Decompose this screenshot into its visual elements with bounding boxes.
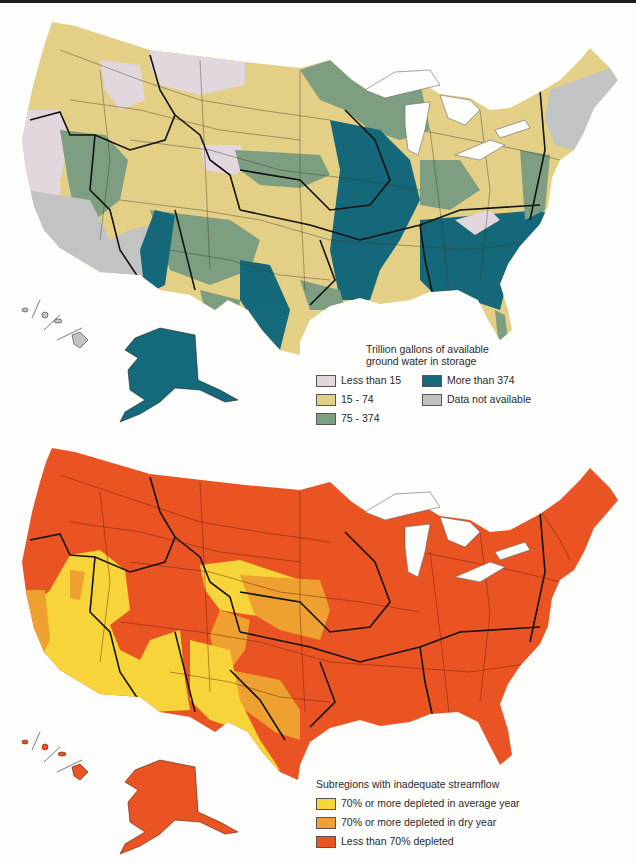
- streamflow-legend: Subregions with inadequate streamflow 70…: [316, 779, 636, 852]
- legend-item-less-than-70: Less than 70% depleted: [316, 833, 636, 852]
- legend-label: 75 - 374: [341, 413, 380, 425]
- legend-label: 15 - 74: [341, 394, 374, 406]
- legend-label: Data not available: [447, 394, 531, 406]
- swatch-75-374: [316, 413, 336, 425]
- swatch-less-than-70: [316, 836, 336, 848]
- legend-item-75-374: 75 - 374: [316, 409, 422, 428]
- swatch-dry-year: [316, 817, 336, 829]
- legend-item-more-than-374: More than 374: [422, 371, 562, 390]
- legend-item-15-74: 15 - 74: [316, 390, 422, 409]
- legend-label: 70% or more depleted in dry year: [341, 817, 496, 829]
- legend-label: 70% or more depleted in average year: [341, 798, 520, 810]
- legend-title: Subregions with inadequate streamflow: [316, 779, 636, 791]
- legend-item-dry-year: 70% or more depleted in dry year: [316, 814, 636, 833]
- legend-item-data-not-available: Data not available: [422, 390, 562, 409]
- legend-title: Trillion gallons of available ground wat…: [316, 344, 636, 367]
- legend-label: Less than 70% depleted: [341, 836, 454, 848]
- swatch-less-than-15: [316, 375, 336, 387]
- legend-title-line2: ground water in storage: [366, 356, 636, 368]
- legend-item-average-year: 70% or more depleted in average year: [316, 795, 636, 814]
- swatch-15-74: [316, 394, 336, 406]
- legend-item-less-than-15: Less than 15: [316, 371, 422, 390]
- swatch-more-than-374: [422, 375, 442, 387]
- legend-label: Less than 15: [341, 375, 401, 387]
- top-border: [0, 0, 636, 3]
- swatch-data-not-available: [422, 394, 442, 406]
- swatch-average-year: [316, 798, 336, 810]
- legend-label: More than 374: [447, 375, 515, 387]
- groundwater-legend: Trillion gallons of available ground wat…: [316, 344, 636, 428]
- legend-title-line1: Trillion gallons of available: [366, 344, 636, 356]
